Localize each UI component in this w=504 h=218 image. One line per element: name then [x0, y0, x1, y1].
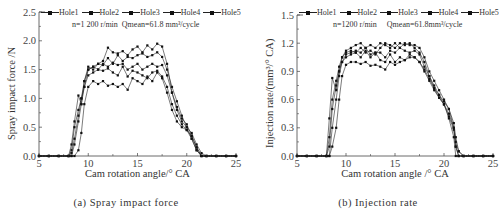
y-tick-label: 0.0 — [23, 151, 36, 162]
legend-item-hole1: Hole1 — [299, 8, 337, 17]
y-tick-label: 0.0 — [281, 151, 294, 162]
chart-legend-b: Hole1 Hole2 Hole3 Hole4 Hole5 — [299, 8, 502, 17]
series-hole2 — [296, 42, 494, 157]
legend-marker-icon — [203, 9, 221, 16]
legend-marker-icon — [163, 9, 181, 16]
series-hole1 — [38, 51, 237, 157]
legend-marker-icon — [82, 9, 100, 16]
legend-item-hole2: Hole2 — [82, 8, 120, 17]
y-tick-label: 1.5 — [281, 10, 294, 21]
y-tick-label: 1.5 — [23, 64, 36, 75]
chart-annotation-a: n=1 200 r/min Qmean=61.8 mm³/cycle — [72, 20, 199, 29]
series-hole3 — [296, 47, 494, 157]
legend-marker-icon — [380, 9, 398, 16]
chart-panel-spray-impact-force: 0.00.51.01.52.02.5510152025 Hole1 Hole2 … — [0, 0, 252, 218]
caption-a: (a) Spray impact force — [0, 197, 252, 208]
series-hole1 — [296, 42, 494, 157]
y-axis-label-a: Spray impact force /N — [6, 47, 17, 140]
legend-marker-icon — [122, 9, 140, 16]
y-tick-label: 0.5 — [23, 122, 36, 133]
y-tick-label: 1.2 — [281, 38, 294, 49]
legend-marker-icon — [299, 9, 317, 16]
legend-item-hole5: Hole5 — [461, 8, 499, 17]
y-axis-label-b: Injection rate/(mm³/° CA) — [264, 39, 275, 148]
y-tick-label: 1.0 — [23, 93, 36, 104]
y-tick-label: 0.6 — [281, 94, 294, 105]
legend-marker-icon — [340, 9, 358, 16]
x-axis-label-a: Cam rotation angle/° CA — [39, 168, 236, 179]
chart-panel-injection-rate: 0.00.30.60.91.21.5510152025 Hole1 Hole2 … — [252, 0, 504, 218]
legend-marker-icon — [461, 9, 479, 16]
legend-item-hole2: Hole2 — [340, 8, 378, 17]
legend-item-hole3: Hole3 — [122, 8, 160, 17]
y-tick-label: 2.5 — [23, 7, 36, 18]
chart-plot-a: 0.00.51.01.52.02.5510152025 — [0, 0, 252, 218]
series-hole2 — [38, 43, 237, 158]
legend-item-hole4: Hole4 — [163, 8, 201, 17]
y-tick-label: 0.3 — [281, 122, 294, 133]
series-hole4 — [38, 66, 237, 157]
legend-item-hole5: Hole5 — [203, 8, 241, 17]
y-tick-label: 2.0 — [23, 35, 36, 46]
legend-marker-icon — [41, 9, 59, 16]
chart-plot-b: 0.00.30.60.91.21.5510152025 — [252, 0, 504, 218]
y-tick-label: 0.9 — [281, 66, 294, 77]
legend-item-hole4: Hole4 — [421, 8, 459, 17]
chart-legend-a: Hole1 Hole2 Hole3 Hole4 Hole5 — [41, 8, 244, 17]
legend-item-hole1: Hole1 — [41, 8, 79, 17]
caption-b: (b) Injection rate — [252, 197, 504, 208]
series-hole3 — [38, 62, 237, 158]
series-hole5 — [38, 71, 237, 157]
legend-marker-icon — [421, 9, 439, 16]
chart-annotation-b: n=1200 r/min Qmean=61.8mm³/cycle — [333, 20, 462, 29]
legend-item-hole3: Hole3 — [380, 8, 418, 17]
series-hole5 — [296, 56, 494, 157]
x-axis-label-b: Cam rotation angle /° CA — [297, 168, 493, 179]
